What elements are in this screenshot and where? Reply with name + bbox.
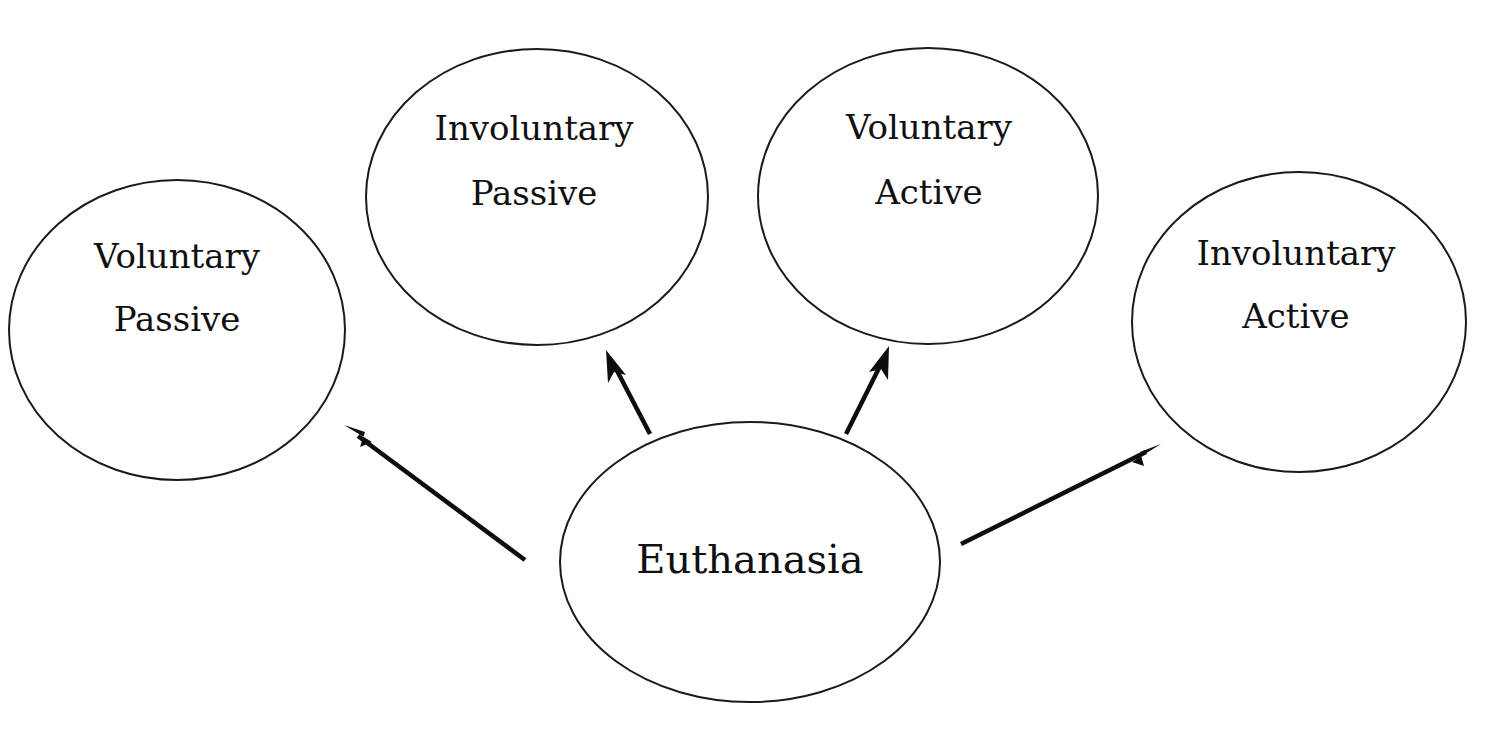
node-label-line1: Involuntary (1196, 233, 1396, 273)
euthanasia-classification-diagram: Voluntary Passive Involuntary Passive Vo… (0, 0, 1503, 730)
node-label-line2: Active (1241, 296, 1349, 336)
node-label-line2: Passive (471, 173, 598, 213)
edge-to-involuntary-passive[interactable] (606, 350, 650, 434)
diagram-canvas: Voluntary Passive Involuntary Passive Vo… (0, 0, 1503, 730)
edge-line (358, 436, 525, 560)
node-label-line1: Involuntary (434, 108, 634, 148)
node-involuntary-passive[interactable]: Involuntary Passive (366, 49, 708, 345)
node-voluntary-active[interactable]: Voluntary Active (758, 48, 1098, 344)
edge-line (846, 360, 883, 434)
edge-line (613, 363, 650, 434)
edge-to-involuntary-active[interactable] (961, 444, 1161, 544)
edge-to-voluntary-active[interactable] (846, 346, 889, 434)
arrowhead-icon (869, 346, 889, 380)
edge-line (961, 452, 1146, 544)
node-label-line1: Voluntary (845, 107, 1013, 147)
node-label-line2: Active (874, 172, 982, 212)
node-involuntary-active[interactable]: Involuntary Active (1132, 172, 1466, 472)
node-voluntary-passive[interactable]: Voluntary Passive (9, 180, 345, 480)
node-label-line2: Passive (114, 299, 241, 339)
node-euthanasia[interactable]: Euthanasia (560, 422, 940, 702)
node-label-root: Euthanasia (636, 536, 863, 582)
node-label-line1: Voluntary (93, 236, 261, 276)
edge-to-voluntary-passive[interactable] (344, 425, 525, 560)
